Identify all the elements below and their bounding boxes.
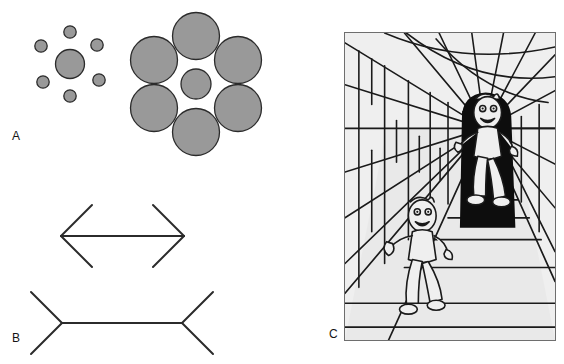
panel-c-corridor-illustration-frame bbox=[344, 32, 556, 341]
inducer-circle-large bbox=[215, 85, 262, 132]
fin-line bbox=[31, 323, 62, 354]
figure-torso bbox=[474, 126, 502, 159]
inducer-circle-small bbox=[64, 26, 76, 38]
fin-line bbox=[61, 205, 92, 236]
arrowheads-inward-shaft bbox=[61, 205, 184, 267]
inducer-circle-large bbox=[215, 37, 262, 84]
figure-pupil bbox=[492, 107, 494, 109]
inducer-circle-small bbox=[91, 39, 103, 51]
inducer-circle-large bbox=[131, 37, 178, 84]
arrowheads-outward-shaft bbox=[31, 292, 213, 354]
inducer-circle-large bbox=[131, 85, 178, 132]
panel-c-corridor-scene bbox=[345, 33, 555, 340]
target-circle-left bbox=[56, 50, 85, 79]
fin-line bbox=[31, 292, 62, 323]
ebbinghaus-left-cluster bbox=[35, 26, 105, 102]
figure-pupil bbox=[482, 107, 484, 109]
figure-head bbox=[474, 97, 502, 129]
fin-line bbox=[61, 236, 92, 267]
figure-pupil bbox=[427, 211, 429, 213]
inducer-circle-small bbox=[93, 74, 105, 86]
panel-b-muller-lyer bbox=[31, 205, 213, 354]
figure-foot bbox=[467, 195, 485, 205]
ebbinghaus-right-cluster bbox=[131, 13, 262, 156]
inducer-circle-large bbox=[173, 13, 220, 60]
figure-leg bbox=[473, 156, 487, 196]
fin-line bbox=[182, 292, 213, 323]
figure-foot bbox=[493, 197, 511, 207]
panel-a-ebbinghaus bbox=[35, 13, 262, 156]
figure-foot bbox=[399, 304, 417, 314]
inducer-circle-small bbox=[64, 90, 76, 102]
inducer-circle-small bbox=[37, 76, 49, 88]
figure-torso bbox=[408, 230, 436, 263]
illusions-figure: A B C bbox=[0, 0, 564, 364]
inducer-circle-small bbox=[35, 40, 47, 52]
figure-head bbox=[408, 200, 436, 232]
fin-line bbox=[153, 236, 184, 267]
panel-label-c: C bbox=[329, 328, 338, 340]
fin-line bbox=[182, 323, 213, 354]
inducer-circle-large bbox=[173, 109, 220, 156]
panel-label-a: A bbox=[12, 130, 20, 142]
target-circle-right bbox=[181, 69, 211, 99]
fin-line bbox=[153, 205, 184, 236]
panel-label-b: B bbox=[12, 332, 20, 344]
figure-pupil bbox=[416, 211, 418, 213]
figure-foot bbox=[427, 300, 445, 310]
figure-hand bbox=[384, 242, 394, 256]
figure-hand bbox=[454, 142, 462, 152]
